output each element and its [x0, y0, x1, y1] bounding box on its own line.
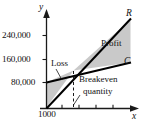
- cost-curve-label: C: [124, 57, 130, 67]
- breakeven-leader-line: [74, 95, 81, 105]
- y-axis-tick-label-160000: 160,000: [2, 55, 30, 64]
- breakeven-quantity-label-line2: quantity: [83, 87, 113, 96]
- loss-region-label: Loss: [51, 59, 68, 68]
- y-axis-tick-label-240000: 240,000: [2, 31, 30, 40]
- x-axis-tick-label-1000: 1000: [38, 110, 56, 119]
- x-axis-label: x: [132, 112, 136, 122]
- y-axis-tick-label-80000: 80,000: [11, 78, 35, 87]
- y-axis-label: y: [39, 3, 43, 13]
- profit-region-label: Profit: [101, 39, 122, 48]
- breakeven-quantity-label-line1: Breakeven: [79, 75, 117, 84]
- y-axis-arrowhead: [43, 9, 50, 18]
- revenue-curve-label: R: [126, 9, 132, 19]
- breakeven-chart-figure: 240,000 160,000 80,000 1000 y x R C Loss…: [0, 0, 144, 127]
